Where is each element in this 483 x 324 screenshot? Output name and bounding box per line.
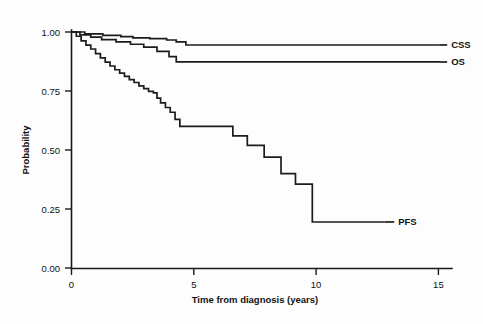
y-tick-label-4: 0.25	[42, 204, 61, 215]
kaplan-meier-figure: 1.00 0.75 0.50 0.25 0.00 0 5 10 15 Time …	[0, 0, 483, 324]
x-axis-tick-labels: 0 5 10 15	[69, 279, 444, 290]
survival-curve-chart: 1.00 0.75 0.50 0.25 0.00 0 5 10 15 Time …	[0, 0, 483, 324]
x-axis-ticks	[72, 269, 439, 276]
y-axis-ticks	[65, 32, 72, 268]
series-label-os: OS	[451, 56, 465, 67]
x-tick-label-5: 5	[191, 279, 196, 290]
x-axis-title: Time from diagnosis (years)	[192, 294, 319, 305]
y-tick-label-3: 0.50	[42, 145, 61, 156]
series-label-css: CSS	[451, 39, 471, 50]
x-tick-label-15: 15	[433, 279, 444, 290]
y-tick-label-2: 0.75	[42, 86, 61, 97]
x-tick-label-0: 0	[69, 279, 74, 290]
x-tick-label-10: 10	[311, 279, 322, 290]
series-line-css	[72, 32, 440, 45]
series-line-pfs	[72, 32, 385, 222]
y-axis-tick-labels: 1.00 0.75 0.50 0.25 0.00	[42, 27, 61, 274]
y-tick-label-1: 1.00	[42, 27, 61, 38]
series-label-pfs: PFS	[398, 216, 416, 227]
y-tick-label-5: 0.00	[42, 263, 61, 274]
y-axis-title: Probability	[20, 125, 31, 175]
